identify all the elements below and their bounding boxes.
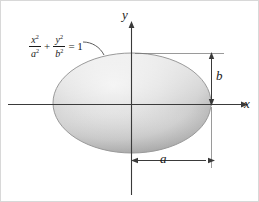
semi-minor-axis-label: b bbox=[216, 69, 223, 82]
equation-fraction-x: x2 a2 bbox=[29, 33, 41, 60]
ellipse-equation: x2 a2 + y2 b2 = 1 bbox=[29, 33, 83, 60]
y-axis-label: y bbox=[122, 8, 128, 21]
ellipse-figure: x2 a2 + y2 b2 = 1 y x b a bbox=[0, 0, 259, 202]
equation-plus-operator: + bbox=[43, 41, 51, 52]
equation-denominator-b: b2 bbox=[53, 47, 65, 60]
equation-numerator-x: x2 bbox=[29, 33, 41, 46]
semi-major-axis-label: a bbox=[160, 152, 167, 165]
equation-equals-one: = 1 bbox=[67, 41, 82, 52]
equation-numerator-y: y2 bbox=[54, 33, 66, 46]
equation-denominator-a: a2 bbox=[29, 47, 41, 60]
x-axis-label: x bbox=[244, 97, 250, 110]
figure-canvas bbox=[0, 0, 259, 202]
equation-fraction-y: y2 b2 bbox=[53, 33, 65, 60]
